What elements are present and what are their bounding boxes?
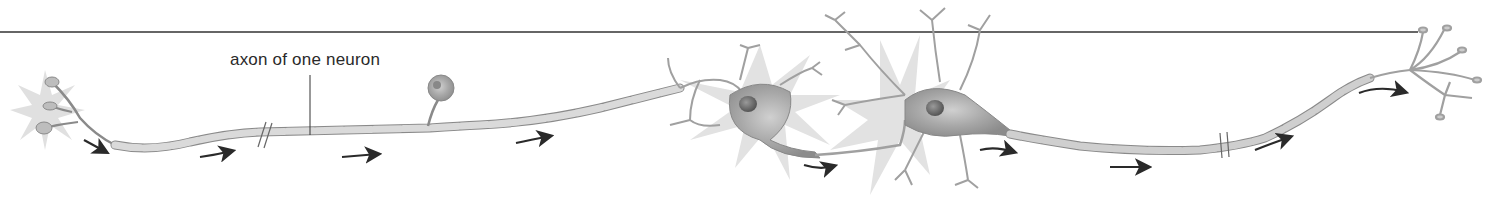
neuron-diagram: axon of one neuron <box>0 0 1490 199</box>
axon-label: axon of one neuron <box>230 50 380 70</box>
arrow-icon <box>980 148 1014 152</box>
myelinated-axon-segment-2 <box>1010 78 1370 151</box>
arrow-icon <box>84 140 106 152</box>
arrow-icon <box>200 151 232 157</box>
arrow-icon <box>1359 89 1405 93</box>
myelinated-axon-segment-1 <box>115 88 680 148</box>
arrow-icon <box>342 154 378 157</box>
cell-body-sensory <box>428 75 454 126</box>
arrow-icon <box>516 136 550 143</box>
arrow-icon <box>804 165 834 168</box>
axon-terminals <box>1370 26 1481 120</box>
neuron-pathway-illustration <box>0 0 1490 199</box>
interneuron-cell-body-2 <box>905 89 1010 137</box>
